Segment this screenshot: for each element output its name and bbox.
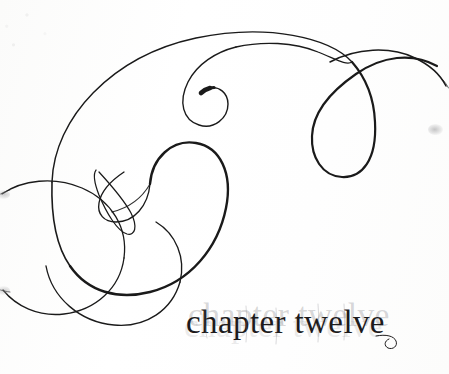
swash-ghost-a (205, 310, 207, 338)
swash-ghost-e (344, 304, 345, 340)
swash-ghost-c (276, 308, 277, 344)
swash-ghost-b (246, 306, 247, 342)
title-swashes (0, 0, 449, 374)
swash-trailing (376, 335, 396, 348)
chapter-opener-page: chapter twelve chapter twelve chapter tw… (0, 0, 449, 374)
swash-ghost-d (318, 304, 319, 342)
